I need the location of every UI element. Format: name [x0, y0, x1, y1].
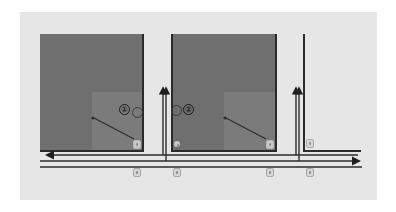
camera-icon [133, 168, 141, 177]
marker-1: ① [119, 104, 130, 115]
road-lines [0, 0, 396, 212]
marker-2: ② [183, 104, 194, 115]
camera-icon [174, 141, 180, 147]
camera-icon [133, 140, 141, 149]
camera-icon [266, 140, 274, 149]
cross-street-2-arrow [296, 89, 299, 161]
camera-icon [306, 139, 314, 148]
marker-0a [132, 107, 143, 118]
cross-street-1-arrow [163, 89, 166, 161]
trajectory-path-1 [92, 117, 135, 140]
camera-icon [306, 168, 314, 177]
trajectory-path-2 [224, 117, 267, 140]
camera-icon [173, 168, 181, 177]
camera-icon [266, 168, 274, 177]
marker-0b [171, 105, 182, 116]
